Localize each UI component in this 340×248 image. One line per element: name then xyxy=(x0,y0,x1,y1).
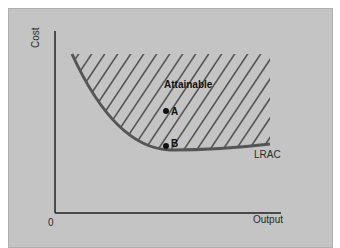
point-a-label: A xyxy=(171,106,178,117)
point-a-marker xyxy=(163,108,169,114)
lrac-label: LRAC xyxy=(254,149,281,160)
point-b-marker xyxy=(163,143,169,149)
lrac-curve xyxy=(72,54,270,150)
point-b-label: B xyxy=(171,138,178,149)
x-axis-label: Output xyxy=(253,214,283,225)
y-axis-label: Cost xyxy=(30,27,41,48)
attainable-label: Attainable xyxy=(164,79,212,90)
origin-label: 0 xyxy=(48,217,54,228)
